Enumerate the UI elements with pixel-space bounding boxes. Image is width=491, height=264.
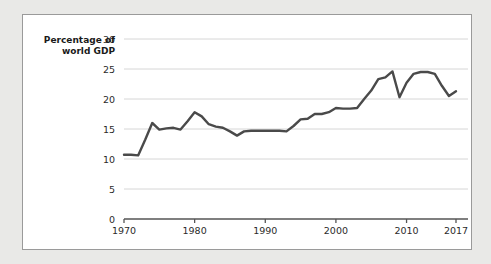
y-axis-ticks: 051015202530 <box>103 34 115 225</box>
x-tick-label-1990: 1990 <box>253 225 277 236</box>
x-tick-label-2010: 2010 <box>394 225 418 236</box>
gridlines <box>124 39 468 189</box>
y-tick-label-0: 0 <box>109 214 115 225</box>
page-background: 051015202530197019801990200020102017Perc… <box>0 0 491 264</box>
y-axis-title-line-0: Percentage of <box>44 35 115 45</box>
x-tick-label-2017: 2017 <box>444 225 468 236</box>
x-tick-label-2000: 2000 <box>324 225 348 236</box>
x-axis-ticks: 197019801990200020102017 <box>112 219 468 236</box>
chart-panel: 051015202530197019801990200020102017Perc… <box>22 14 472 250</box>
y-tick-label-15: 15 <box>103 124 115 135</box>
y-tick-label-25: 25 <box>103 64 115 75</box>
x-tick-label-1970: 1970 <box>112 225 136 236</box>
y-tick-label-20: 20 <box>103 94 115 105</box>
x-tick-label-1980: 1980 <box>183 225 207 236</box>
line-chart: 051015202530197019801990200020102017Perc… <box>23 15 471 249</box>
y-tick-label-10: 10 <box>103 154 115 165</box>
data-series-line <box>124 71 456 155</box>
y-axis-title-line-1: world GDP <box>62 46 115 56</box>
y-tick-label-5: 5 <box>109 184 115 195</box>
y-axis-title: Percentage ofworld GDP <box>44 35 116 56</box>
